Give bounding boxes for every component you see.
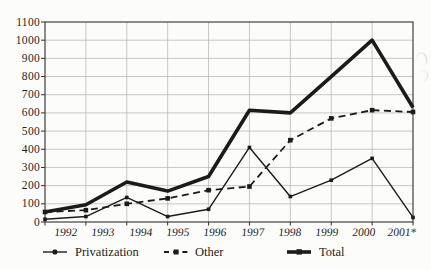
data-point-privatization bbox=[84, 215, 88, 219]
y-tick-label: 500 bbox=[0, 125, 40, 138]
y-tick-label: 1100 bbox=[0, 16, 40, 29]
data-point-other bbox=[288, 138, 293, 143]
data-point-privatization bbox=[207, 207, 211, 211]
legend-item-privatization: Privatization bbox=[42, 245, 139, 259]
legend-label-other: Other bbox=[195, 245, 223, 260]
y-tick-label: 400 bbox=[0, 143, 40, 156]
other-series-key-icon bbox=[164, 247, 188, 257]
series-line-privatization bbox=[45, 147, 413, 219]
y-tick-label: 300 bbox=[0, 161, 40, 174]
data-point-privatization bbox=[43, 217, 47, 221]
data-point-other bbox=[247, 184, 252, 189]
y-tick-label: 800 bbox=[0, 70, 40, 83]
line-chart: 010020030040050060070080090010001100 199… bbox=[0, 0, 431, 270]
y-tick-label: 600 bbox=[0, 106, 40, 119]
y-tick-label: 900 bbox=[0, 52, 40, 65]
x-tick-label: 2001* bbox=[376, 226, 427, 238]
data-point-privatization bbox=[370, 157, 374, 161]
y-tick-label: 1000 bbox=[0, 34, 40, 47]
data-point-other bbox=[329, 116, 334, 121]
y-tick-label: 700 bbox=[0, 88, 40, 101]
y-tick-label: 200 bbox=[0, 179, 40, 192]
data-point-other bbox=[206, 188, 211, 193]
data-point-other bbox=[84, 208, 89, 213]
data-point-privatization bbox=[248, 146, 252, 150]
y-tick-label: 0 bbox=[0, 216, 40, 229]
legend-label-privatization: Privatization bbox=[75, 245, 139, 260]
data-point-privatization bbox=[125, 196, 129, 200]
series-line-total bbox=[45, 40, 413, 212]
legend-item-other: Other bbox=[164, 245, 223, 259]
data-point-privatization bbox=[289, 195, 293, 199]
total-series-key-icon bbox=[286, 247, 312, 257]
legend-label-total: Total bbox=[319, 245, 345, 260]
data-point-other bbox=[411, 110, 416, 115]
data-point-privatization bbox=[411, 216, 415, 220]
scan-smudge bbox=[419, 69, 429, 82]
data-point-other bbox=[370, 108, 375, 113]
legend-item-total: Total bbox=[286, 245, 345, 259]
plot-area bbox=[38, 20, 422, 230]
data-point-other bbox=[165, 196, 170, 201]
y-tick-label: 100 bbox=[0, 197, 40, 210]
chart-legend: Privatization Other Total bbox=[0, 245, 431, 263]
data-point-privatization bbox=[166, 215, 170, 219]
privatization-series-key-icon bbox=[42, 247, 68, 257]
data-point-other bbox=[124, 202, 129, 207]
data-point-privatization bbox=[329, 178, 333, 182]
